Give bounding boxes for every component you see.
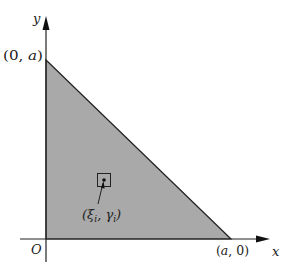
triangle-region-diagram: y x O (0, a) (a, 0) (ξi, γi) (0, 0, 301, 277)
y-axis-label: y (32, 11, 41, 26)
sample-point-label: (ξi, γi) (82, 207, 121, 224)
x-axis-arrow-icon (256, 236, 270, 243)
y-axis-arrow-icon (43, 16, 50, 30)
shaded-triangle-region (46, 60, 231, 239)
top-vertex-label: (0, a) (3, 48, 43, 63)
right-vertex-label: (a, 0) (216, 243, 249, 258)
origin-label: O (31, 242, 42, 257)
sample-point-dot (102, 178, 106, 182)
x-axis-label: x (272, 244, 280, 259)
